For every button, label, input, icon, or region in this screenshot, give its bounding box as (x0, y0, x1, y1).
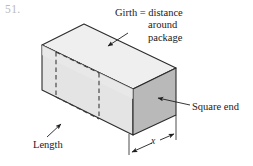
girth-label-line-3: package (115, 32, 183, 44)
x-dimension-label: x (151, 136, 155, 147)
x-dim-line-right (160, 134, 174, 140)
x-dim-line-left (132, 143, 152, 152)
girth-label-line-1: Girth = distance (115, 7, 183, 18)
problem-number: 51. (5, 3, 21, 17)
length-leader-line (47, 124, 61, 137)
length-annotation-label: Length (33, 139, 63, 151)
square-end-annotation-label: Square end (192, 101, 239, 113)
figure-container: 51. Girth = distancearoundpackage Square… (0, 0, 253, 166)
girth-label-line-2: around (115, 19, 183, 31)
girth-annotation-label: Girth = distancearoundpackage (115, 7, 183, 44)
